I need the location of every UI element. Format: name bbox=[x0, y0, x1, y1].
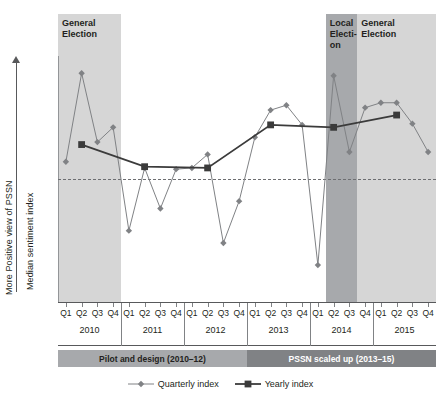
legend-label: Quarterly index bbox=[158, 379, 219, 389]
legend-item-yearly-index[interactable]: Yearly index bbox=[235, 379, 314, 389]
x-quarter-label-2010-Q2: Q2 bbox=[74, 308, 90, 318]
x-tick-2015-Q1 bbox=[381, 303, 382, 307]
x-tick-2014-Q4 bbox=[365, 303, 366, 307]
legend-marker-diamond-icon bbox=[128, 379, 154, 389]
x-year-separator-2015 bbox=[373, 303, 374, 346]
data-series-layer bbox=[58, 14, 436, 302]
x-tick-2013-Q1 bbox=[255, 303, 256, 307]
x-tick-2011-Q3 bbox=[160, 303, 161, 307]
data-point-quarterly-0 bbox=[63, 159, 69, 165]
x-year-separator-2011 bbox=[121, 303, 122, 346]
x-quarter-label-2010-Q4: Q4 bbox=[105, 308, 121, 318]
x-tick-2012-Q4 bbox=[239, 303, 240, 307]
data-point-yearly-0 bbox=[78, 141, 85, 148]
y-axis-title: Median sentiment index bbox=[25, 100, 35, 290]
legend-diamond-icon bbox=[137, 381, 143, 387]
data-point-quarterly-10 bbox=[220, 240, 226, 246]
event-band-label-general-election-2015: General Election bbox=[361, 18, 436, 40]
x-tick-2010-Q3 bbox=[97, 303, 98, 307]
x-tick-2010-Q2 bbox=[82, 303, 83, 307]
chart-legend: Quarterly indexYearly index bbox=[0, 374, 441, 394]
x-year-label-2014: 2014 bbox=[310, 325, 373, 335]
legend-square-icon bbox=[244, 381, 251, 388]
x-year-label-2010: 2010 bbox=[58, 325, 121, 335]
x-tick-2013-Q2 bbox=[271, 303, 272, 307]
x-quarter-label-2015-Q3: Q3 bbox=[405, 308, 421, 318]
x-year-label-2015: 2015 bbox=[373, 325, 436, 335]
legend-marker-square-icon bbox=[235, 379, 261, 389]
x-tick-2015-Q3 bbox=[412, 303, 413, 307]
data-point-yearly-3 bbox=[267, 121, 274, 128]
x-quarter-label-2014-Q2: Q2 bbox=[326, 308, 342, 318]
chart-canvas: More Positive view of PSSN Median sentim… bbox=[0, 0, 441, 400]
x-tick-2013-Q4 bbox=[302, 303, 303, 307]
data-point-quarterly-13 bbox=[267, 107, 273, 113]
x-quarter-label-2011-Q4: Q4 bbox=[168, 308, 184, 318]
data-point-quarterly-11 bbox=[236, 198, 242, 204]
y-direction-axis-line bbox=[16, 62, 17, 292]
x-tick-2012-Q1 bbox=[192, 303, 193, 307]
x-quarter-label-2012-Q2: Q2 bbox=[200, 308, 216, 318]
x-year-label-2013: 2013 bbox=[247, 325, 310, 335]
x-quarter-label-2013-Q1: Q1 bbox=[247, 308, 263, 318]
plot-area: General ElectionLocal Electi- onGeneral … bbox=[58, 14, 436, 302]
x-tick-2010-Q1 bbox=[66, 303, 67, 307]
x-quarter-label-2012-Q1: Q1 bbox=[184, 308, 200, 318]
x-tick-2010-Q4 bbox=[113, 303, 114, 307]
x-tick-2015-Q2 bbox=[397, 303, 398, 307]
legend-item-quarterly-index[interactable]: Quarterly index bbox=[128, 379, 219, 389]
x-quarter-label-2013-Q2: Q2 bbox=[263, 308, 279, 318]
x-quarter-label-2014-Q1: Q1 bbox=[310, 308, 326, 318]
x-tick-2014-Q2 bbox=[334, 303, 335, 307]
x-tick-2015-Q4 bbox=[428, 303, 429, 307]
event-band-label-general-election-2010: General Election bbox=[62, 18, 121, 40]
data-point-yearly-4 bbox=[330, 124, 337, 131]
x-quarter-label-2015-Q4: Q4 bbox=[420, 308, 436, 318]
x-tick-2013-Q3 bbox=[286, 303, 287, 307]
x-quarter-label-2011-Q3: Q3 bbox=[153, 308, 169, 318]
x-quarter-label-2012-Q3: Q3 bbox=[216, 308, 232, 318]
x-quarter-label-2015-Q2: Q2 bbox=[389, 308, 405, 318]
data-point-quarterly-6 bbox=[157, 205, 163, 211]
y-direction-label: More Positive view of PSSN bbox=[4, 95, 14, 295]
data-point-yearly-1 bbox=[141, 163, 148, 170]
x-quarter-label-2013-Q3: Q3 bbox=[279, 308, 295, 318]
data-point-quarterly-16 bbox=[315, 262, 321, 268]
x-year-separator-2012 bbox=[184, 303, 185, 346]
x-year-label-2011: 2011 bbox=[121, 325, 184, 335]
x-year-label-2012: 2012 bbox=[184, 325, 247, 335]
x-quarter-label-2014-Q4: Q4 bbox=[357, 308, 373, 318]
phase-bar: Pilot and design (2010–12)PSSN scaled up… bbox=[58, 350, 436, 367]
series-line-yearly bbox=[82, 115, 397, 168]
x-quarter-label-2011-Q1: Q1 bbox=[121, 308, 137, 318]
phase-segment-pilot-and-design: Pilot and design (2010–12) bbox=[58, 350, 247, 367]
x-year-separator-2014 bbox=[310, 303, 311, 346]
x-quarter-label-2015-Q1: Q1 bbox=[373, 308, 389, 318]
data-point-quarterly-17 bbox=[330, 72, 336, 78]
x-tick-2012-Q2 bbox=[208, 303, 209, 307]
data-point-quarterly-1 bbox=[78, 70, 84, 76]
data-point-yearly-2 bbox=[204, 165, 211, 172]
x-tick-2014-Q3 bbox=[349, 303, 350, 307]
x-axis: Q1Q2Q3Q42010Q1Q2Q3Q42011Q1Q2Q3Q42012Q1Q2… bbox=[58, 302, 436, 346]
x-quarter-label-2013-Q4: Q4 bbox=[294, 308, 310, 318]
data-point-yearly-5 bbox=[393, 112, 400, 119]
x-quarter-label-2011-Q2: Q2 bbox=[137, 308, 153, 318]
data-point-quarterly-4 bbox=[126, 227, 132, 233]
data-point-quarterly-18 bbox=[346, 149, 352, 155]
legend-label: Yearly index bbox=[265, 379, 314, 389]
series-line-quarterly bbox=[66, 73, 428, 265]
x-tick-2011-Q1 bbox=[129, 303, 130, 307]
data-point-quarterly-23 bbox=[425, 149, 431, 155]
x-tick-2011-Q2 bbox=[145, 303, 146, 307]
x-tick-2014-Q1 bbox=[318, 303, 319, 307]
x-quarter-label-2010-Q3: Q3 bbox=[90, 308, 106, 318]
x-quarter-label-2010-Q1: Q1 bbox=[58, 308, 74, 318]
x-year-separator-2013 bbox=[247, 303, 248, 346]
x-quarter-label-2012-Q4: Q4 bbox=[231, 308, 247, 318]
x-tick-2012-Q3 bbox=[223, 303, 224, 307]
data-point-quarterly-19 bbox=[362, 104, 368, 110]
x-tick-2011-Q4 bbox=[176, 303, 177, 307]
phase-segment-pssn-scaled-up: PSSN scaled up (2013–15) bbox=[247, 350, 436, 367]
data-point-quarterly-20 bbox=[378, 100, 384, 106]
